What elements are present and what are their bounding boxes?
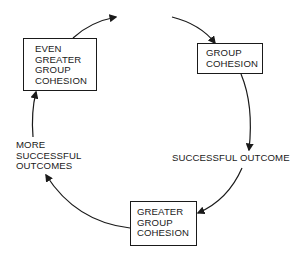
node-text-line: COHESION	[137, 228, 196, 239]
cycle-diagram: EVEN GREATER GROUP COHESION GROUP COHESI…	[0, 0, 302, 255]
arrow-bottom-left	[46, 175, 130, 228]
node-text-line: SUCCESSFUL OUTCOME	[172, 153, 290, 164]
node-even-greater-group-cohesion: EVEN GREATER GROUP COHESION	[23, 38, 97, 91]
node-text-line: OUTCOMES	[16, 161, 82, 172]
node-text-line: COHESION	[35, 76, 96, 87]
node-text-line: EVEN	[35, 44, 96, 55]
arrow-top-right	[172, 17, 215, 43]
node-text-line: GROUP	[206, 48, 262, 59]
node-more-successful-outcomes: MORE SUCCESSFUL OUTCOMES	[16, 140, 82, 172]
node-text-line: GREATER	[137, 207, 196, 218]
arrow-top-left	[73, 17, 116, 38]
node-successful-outcome: SUCCESSFUL OUTCOME	[172, 153, 290, 164]
node-text-line: COHESION	[206, 59, 262, 70]
node-group-cohesion: GROUP COHESION	[197, 43, 263, 74]
node-greater-group-cohesion: GREATER GROUP COHESION	[130, 201, 197, 246]
arrow-right	[241, 74, 250, 150]
arrow-left	[32, 92, 36, 137]
arrow-bottom-right	[198, 168, 242, 213]
node-text-line: MORE	[16, 140, 82, 151]
